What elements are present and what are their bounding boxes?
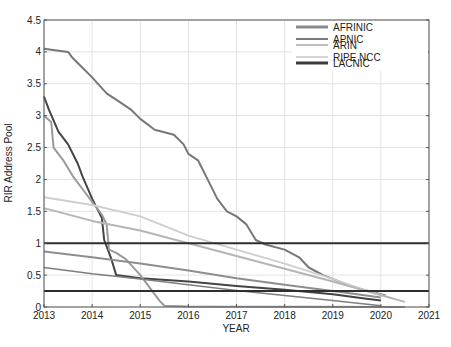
y-tick-label: 2.5: [27, 142, 41, 153]
x-tick-label: 2021: [418, 310, 441, 321]
y-tick-label: 4: [35, 46, 41, 57]
y-tick-label: 1.5: [27, 206, 41, 217]
y-tick-label: 0: [35, 302, 41, 313]
y-tick-label: 3.5: [27, 78, 41, 89]
x-tick-label: 2019: [322, 310, 345, 321]
legend-label: LACNIC: [333, 58, 370, 69]
y-tick-label: 0.5: [27, 270, 41, 281]
legend-label: ARIN: [333, 40, 357, 51]
chart: 201320142015201620172018201920202021 00.…: [0, 0, 451, 347]
y-tick-label: 1: [35, 238, 41, 249]
legend: AFRINICAPNICARINRIPE NCCLACNIC: [292, 21, 428, 71]
y-tick-label: 3: [35, 110, 41, 121]
x-tick-label: 2018: [274, 310, 297, 321]
x-tick-label: 2014: [81, 310, 104, 321]
x-tick-label: 2015: [129, 310, 152, 321]
x-tick-label: 2017: [225, 310, 248, 321]
y-tick-label: 4.5: [27, 15, 41, 26]
y-tick-label: 2: [35, 174, 41, 185]
legend-label: AFRINIC: [333, 22, 373, 33]
x-tick-label: 2020: [370, 310, 393, 321]
x-axis-label: YEAR: [222, 323, 249, 334]
y-axis-label: RIR Address Pool: [3, 124, 14, 203]
x-tick-label: 2016: [177, 310, 200, 321]
